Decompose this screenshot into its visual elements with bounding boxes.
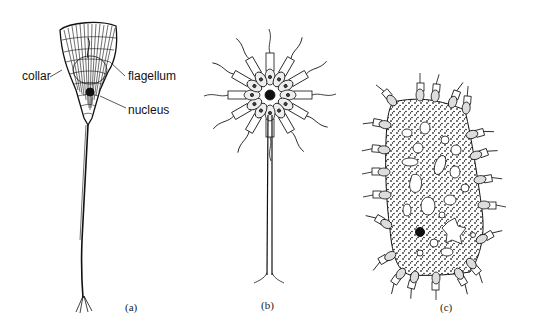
label-collar: collar (22, 70, 51, 82)
label-flagellum: flagellum (128, 70, 176, 82)
panel-a-drawing (50, 23, 126, 313)
caption-c: (c) (440, 302, 452, 313)
panel-b-drawing (204, 29, 336, 283)
panel-c-drawing (362, 73, 506, 300)
choanoflagellate-figure: collar flagellum nucleus (a) (b) (c) (0, 0, 533, 335)
caption-b: (b) (261, 300, 274, 311)
label-nucleus: nucleus (128, 104, 169, 116)
caption-a: (a) (125, 302, 137, 313)
drawings (0, 0, 533, 335)
